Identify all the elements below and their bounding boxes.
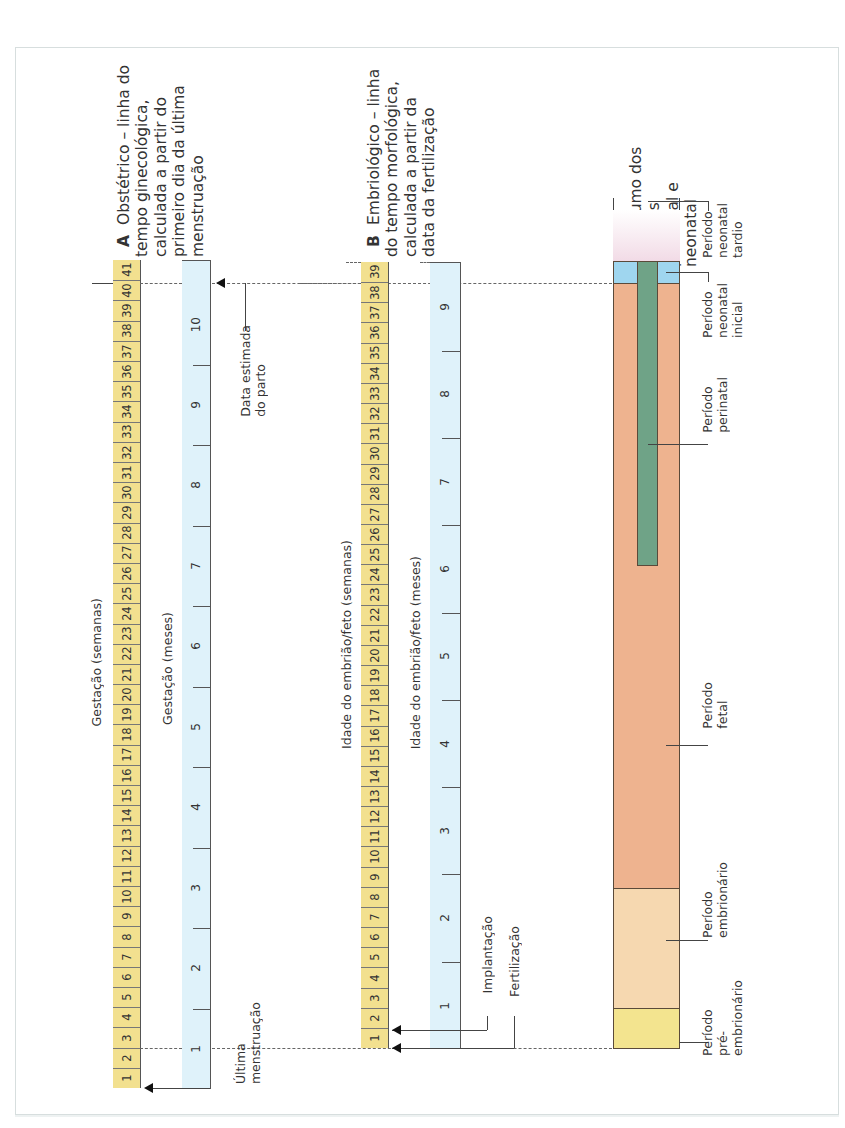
month-cell: 4 bbox=[430, 700, 460, 787]
month-number: 7 bbox=[189, 562, 203, 570]
week-number: 11 bbox=[368, 830, 382, 844]
week-number: 3 bbox=[368, 995, 382, 1002]
week-number: 39 bbox=[120, 304, 134, 318]
month-tick bbox=[442, 525, 460, 526]
month-number: 10 bbox=[189, 317, 203, 332]
week-number: 31 bbox=[368, 427, 382, 441]
week-cell: 13 bbox=[113, 825, 140, 845]
month-tick bbox=[193, 606, 210, 607]
month-number: 7 bbox=[438, 478, 452, 486]
month-number: 8 bbox=[189, 481, 203, 489]
month-tick bbox=[442, 962, 460, 963]
fertilization-leader bbox=[514, 1016, 515, 1048]
week-number: 40 bbox=[120, 284, 134, 298]
week-number: 30 bbox=[368, 447, 382, 461]
week-cell: 26 bbox=[361, 524, 388, 544]
week-cell: 15 bbox=[361, 746, 388, 766]
month-cell: 5 bbox=[430, 613, 460, 700]
week-cell: 31 bbox=[113, 462, 140, 482]
week-number: 25 bbox=[120, 587, 134, 601]
month-tick bbox=[442, 351, 460, 352]
week-cell: 13 bbox=[361, 786, 388, 806]
week-number: 8 bbox=[120, 934, 134, 941]
month-cell: 3 bbox=[182, 848, 210, 929]
week-cell: 9 bbox=[361, 867, 388, 887]
last-period-line bbox=[150, 1088, 210, 1089]
week-cell: 28 bbox=[113, 523, 140, 543]
section-b-title: B Embriológico – linha do tempo morfológ… bbox=[346, 62, 439, 257]
week-number: 39 bbox=[368, 265, 382, 279]
week-cell: 4 bbox=[113, 1007, 140, 1027]
week-cell: 3 bbox=[361, 988, 388, 1008]
week-number: 20 bbox=[120, 688, 134, 702]
week-number: 12 bbox=[120, 849, 134, 863]
section-a-months-label: Gestação (meses) bbox=[160, 612, 175, 725]
section-a-title-text: Obstétrico – linha do tempo ginecológica… bbox=[115, 65, 207, 257]
week-cell: 28 bbox=[361, 484, 388, 504]
week-number: 18 bbox=[120, 728, 134, 742]
week-cell: 8 bbox=[113, 926, 140, 946]
month-number: 1 bbox=[189, 1045, 203, 1053]
month-tick bbox=[442, 700, 460, 701]
week-cell: 30 bbox=[361, 443, 388, 463]
week-cell: 33 bbox=[361, 383, 388, 403]
week-number: 32 bbox=[120, 446, 134, 460]
week-cell: 2 bbox=[361, 1008, 388, 1028]
week-cell: 9 bbox=[113, 906, 140, 926]
week-cell: 6 bbox=[361, 927, 388, 947]
fetal-label: Período fetal bbox=[700, 682, 730, 729]
week-number: 10 bbox=[368, 850, 382, 864]
week-number: 11 bbox=[120, 870, 134, 884]
month-tick bbox=[193, 687, 210, 688]
week-number: 37 bbox=[368, 306, 382, 320]
week-cell: 1 bbox=[361, 1028, 388, 1048]
week-cell: 6 bbox=[113, 967, 140, 987]
section-b-top-dash-2 bbox=[420, 262, 430, 263]
week-cell: 20 bbox=[113, 684, 140, 704]
month-number: 8 bbox=[438, 390, 452, 398]
week-cell: 14 bbox=[113, 805, 140, 825]
week-cell: 11 bbox=[113, 866, 140, 886]
month-number: 5 bbox=[189, 723, 203, 731]
week-cell: 7 bbox=[113, 947, 140, 967]
week-cell: 35 bbox=[113, 381, 140, 401]
week-number: 36 bbox=[120, 365, 134, 379]
month-tick bbox=[193, 526, 210, 527]
week-number: 13 bbox=[368, 790, 382, 804]
month-cell: 10 bbox=[182, 284, 210, 365]
week-cell: 36 bbox=[361, 322, 388, 342]
week-number: 38 bbox=[368, 286, 382, 300]
week-number: 13 bbox=[120, 829, 134, 843]
week-cell: 15 bbox=[113, 785, 140, 805]
week-number: 2 bbox=[120, 1055, 134, 1062]
month-tick bbox=[193, 445, 210, 446]
section-a-letter: A bbox=[115, 235, 133, 247]
week-number: 29 bbox=[368, 467, 382, 481]
month-number: 5 bbox=[438, 652, 452, 660]
month-cell: 9 bbox=[182, 365, 210, 446]
month-cell: 8 bbox=[430, 351, 460, 438]
last-period-arrow-icon bbox=[144, 1083, 153, 1093]
month-tick bbox=[442, 874, 460, 875]
week-cell: 27 bbox=[361, 504, 388, 524]
month-number: 3 bbox=[438, 827, 452, 835]
week-cell: 31 bbox=[361, 423, 388, 443]
due-date-dashed-line-2 bbox=[212, 283, 612, 284]
month-tick bbox=[442, 613, 460, 614]
due-date-arrow-icon bbox=[216, 278, 225, 288]
month-cell: 5 bbox=[182, 687, 210, 768]
week-cell: 3 bbox=[113, 1027, 140, 1047]
week-cell: 25 bbox=[113, 583, 140, 603]
week-cell: 24 bbox=[113, 603, 140, 623]
due-date-label: Data estimada do parto bbox=[238, 325, 268, 417]
week-number: 41 bbox=[120, 263, 134, 277]
month-tick bbox=[442, 438, 460, 439]
week-number: 2 bbox=[368, 1015, 382, 1022]
week-number: 37 bbox=[120, 345, 134, 359]
week-cell: 12 bbox=[361, 806, 388, 826]
week-cell: 34 bbox=[361, 363, 388, 383]
week-number: 14 bbox=[120, 809, 134, 823]
week-cell: 23 bbox=[361, 584, 388, 604]
week-cell: 32 bbox=[113, 442, 140, 462]
section-b-due-dashed-line bbox=[300, 283, 361, 284]
